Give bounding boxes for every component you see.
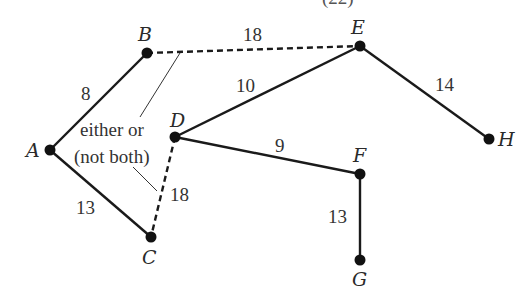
weight-e-h: 14 <box>435 74 455 95</box>
annotation-leader-top <box>140 53 180 117</box>
node-label-f: F <box>352 144 367 166</box>
weight-a-c: 13 <box>76 197 95 218</box>
node-label-a: A <box>24 139 40 161</box>
node-d <box>170 132 181 143</box>
top-fragment-label: (22) <box>322 0 354 9</box>
node-e <box>355 41 366 52</box>
annotation-line-1: either or <box>80 119 145 140</box>
graph-diagram: (22) A B C D E <box>0 0 519 289</box>
node-label-b: B <box>137 23 152 45</box>
weight-a-b: 8 <box>81 83 91 104</box>
weight-f-g: 13 <box>328 206 347 227</box>
node-label-e: E <box>350 16 365 38</box>
node-label-c: C <box>142 246 157 268</box>
node-a <box>45 145 56 156</box>
weight-d-c: 18 <box>170 184 189 205</box>
node-label-h: H <box>497 128 515 150</box>
node-c <box>146 232 157 243</box>
weight-d-f: 9 <box>275 135 285 156</box>
edge-b-e-dashed <box>147 46 360 53</box>
weight-d-e: 10 <box>236 75 255 96</box>
node-g <box>355 255 366 266</box>
node-h <box>484 134 495 145</box>
edge-d-e <box>175 46 360 137</box>
node-label-d: D <box>169 109 185 131</box>
node-label-g: G <box>352 268 367 289</box>
node-f <box>355 169 366 180</box>
annotation-line-2: (not both) <box>74 146 149 168</box>
edge-e-h <box>360 46 489 139</box>
node-b <box>142 48 153 59</box>
edge-d-f <box>175 137 360 174</box>
annotation-leader-bottom <box>133 167 157 191</box>
weight-b-e: 18 <box>243 24 262 45</box>
